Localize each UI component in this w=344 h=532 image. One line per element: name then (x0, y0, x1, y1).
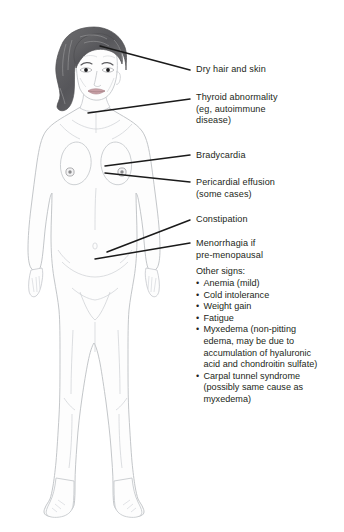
list-item-line: edema, may be due to (204, 336, 343, 348)
list-item-cold-intolerance: • Cold intolerance (196, 290, 342, 302)
hypothyroidism-signs-figure: Dry hair and skin Thyroid abnormality (e… (0, 0, 344, 532)
list-item-line: myxedema) (204, 394, 343, 406)
list-item-line: (possibly same cause as (204, 382, 343, 394)
callout-line: disease) (196, 115, 342, 127)
callout-menorrhagia: Menorrhagia if pre-menopausal (196, 238, 342, 261)
other-signs-list: • Anemia (mild) • Cold intolerance • Wei… (196, 278, 342, 406)
callout-line: (some cases) (196, 189, 342, 201)
list-item-anemia: • Anemia (mild) (196, 278, 342, 290)
list-item-line: Carpal tunnel syndrome (204, 371, 343, 383)
bullet-glyph: • (196, 324, 199, 336)
female-figure-illustration (0, 0, 200, 532)
feet (46, 478, 142, 517)
callout-line: (eg, autoimmune (196, 104, 342, 116)
list-item-line: accumulation of hyaluronic (204, 348, 343, 360)
list-item-line: Myxedema (non-pitting (204, 324, 343, 336)
callout-pericardial-effusion: Pericardial effusion (some cases) (196, 177, 342, 200)
bullet-glyph: • (196, 290, 199, 302)
list-item-line: Fatigue (204, 313, 343, 325)
callout-labels: Dry hair and skin Thyroid abnormality (e… (196, 0, 344, 532)
callout-dry-hair-and-skin: Dry hair and skin (196, 64, 342, 76)
callout-line: Bradycardia (196, 150, 342, 162)
callout-line: Thyroid abnormality (196, 92, 342, 104)
list-item-fatigue: • Fatigue (196, 313, 342, 325)
list-item-myxedema: • Myxedema (non-pitting edema, may be du… (196, 324, 342, 370)
list-item-line: Anemia (mild) (204, 278, 343, 290)
callout-bradycardia: Bradycardia (196, 150, 342, 162)
list-item-carpal-tunnel-syndrome: • Carpal tunnel syndrome (possibly same … (196, 371, 342, 406)
bullet-glyph: • (196, 301, 199, 313)
body-silhouette (28, 101, 160, 516)
callout-thyroid-abnormality: Thyroid abnormality (eg, autoimmune dise… (196, 92, 342, 127)
bullet-glyph: • (196, 313, 199, 325)
head-group (56, 27, 127, 111)
callout-line: Menorrhagia if (196, 238, 342, 250)
list-item-line: acid and chondroitin sulfate) (204, 359, 343, 371)
list-item-line: Weight gain (204, 301, 343, 313)
callout-line: Dry hair and skin (196, 64, 342, 76)
callout-line: Constipation (196, 214, 342, 226)
body-group (28, 27, 160, 517)
bullet-glyph: • (196, 371, 199, 383)
other-signs-heading: Other signs: (196, 266, 245, 278)
callout-line: Pericardial effusion (196, 177, 342, 189)
callout-constipation: Constipation (196, 214, 342, 226)
bullet-glyph: • (196, 278, 199, 290)
callout-line: pre-menopausal (196, 250, 342, 262)
list-item-weight-gain: • Weight gain (196, 301, 342, 313)
list-item-line: Cold intolerance (204, 290, 343, 302)
